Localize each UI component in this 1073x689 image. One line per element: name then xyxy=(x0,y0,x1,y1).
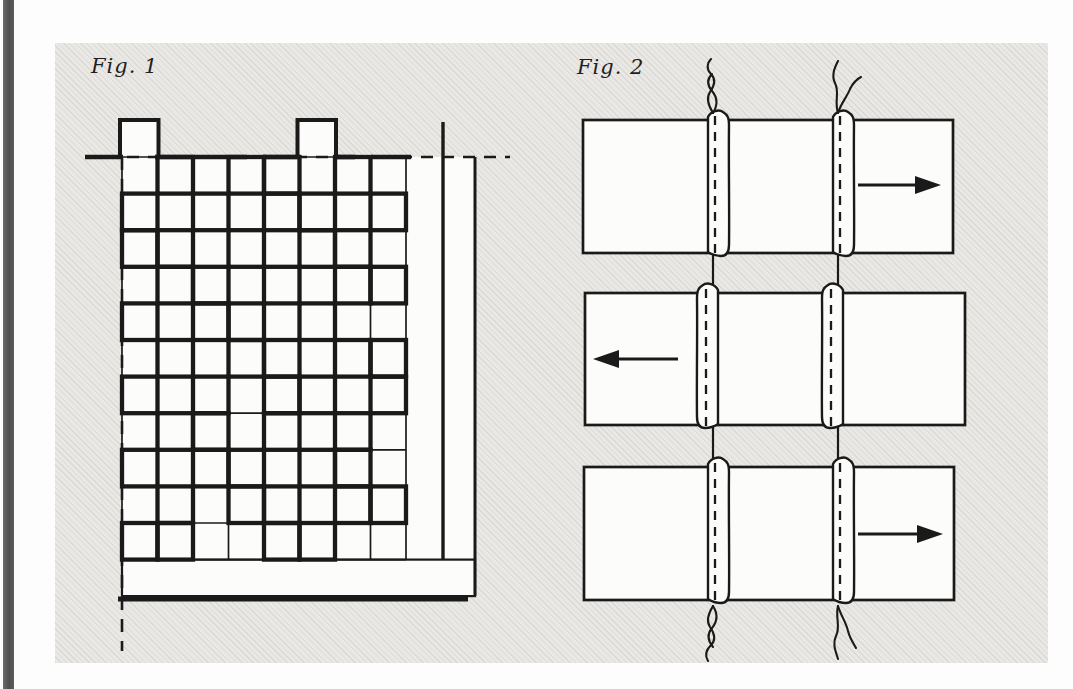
fig2-seam-flap xyxy=(833,458,854,603)
double-strand-thread-top xyxy=(833,61,838,113)
double-strand-thread-bottom xyxy=(834,606,838,659)
double-strand-thread-bottom xyxy=(838,606,856,648)
fig1-bottom-bar-fill xyxy=(122,560,475,597)
book-spine-bar xyxy=(3,0,14,689)
scanned-book-page: Fig. 1 Fig. 2 xyxy=(0,0,1073,689)
fig2-seam-flap xyxy=(822,284,843,428)
fig1-top-tab xyxy=(298,120,337,157)
figure-panel: Fig. 1 Fig. 2 xyxy=(55,43,1048,663)
fig2-seam-rows-drawing xyxy=(535,43,1048,663)
fig2-seam-flap xyxy=(833,111,854,256)
fig1-weaving-grid-drawing xyxy=(55,43,555,663)
double-strand-thread-top xyxy=(838,77,861,113)
fig2-seam-flap xyxy=(697,284,718,428)
fig2-seam-flap xyxy=(708,458,729,603)
fig2-seam-flap xyxy=(708,111,729,256)
fig1-top-tab xyxy=(120,120,159,157)
looped-thread-bottom xyxy=(706,606,714,661)
fig1-right-strips xyxy=(406,157,475,596)
